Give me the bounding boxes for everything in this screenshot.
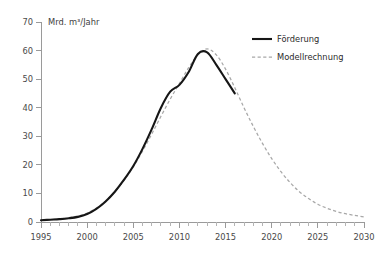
legend-label-foerderung: Förderung <box>277 34 319 44</box>
x-tick-label: 2010 <box>169 232 190 242</box>
chart-background <box>0 0 380 254</box>
y-axis-unit-label: Mrd. m³/Jahr <box>48 17 100 27</box>
y-tick-label: 60 <box>22 46 33 56</box>
x-tick-label: 2000 <box>77 232 98 242</box>
x-tick-label: 2025 <box>307 232 328 242</box>
y-tick-label: 50 <box>22 74 33 84</box>
x-tick-label: 2015 <box>215 232 236 242</box>
y-tick-label: 30 <box>22 131 33 141</box>
x-tick-label: 2005 <box>123 232 144 242</box>
legend-label-modellrechnung: Modellrechnung <box>277 52 343 62</box>
y-tick-label: 0 <box>28 217 33 227</box>
y-tick-label: 10 <box>22 188 33 198</box>
y-tick-label: 40 <box>22 103 33 113</box>
x-tick-label: 2020 <box>261 232 282 242</box>
chart-container: 010203040506070 199520002005201020152020… <box>0 0 380 254</box>
line-chart: 010203040506070 199520002005201020152020… <box>0 0 380 254</box>
y-tick-label: 20 <box>22 160 33 170</box>
y-tick-label: 70 <box>22 17 33 27</box>
x-tick-label: 1995 <box>30 232 51 242</box>
x-tick-label: 2030 <box>353 232 374 242</box>
